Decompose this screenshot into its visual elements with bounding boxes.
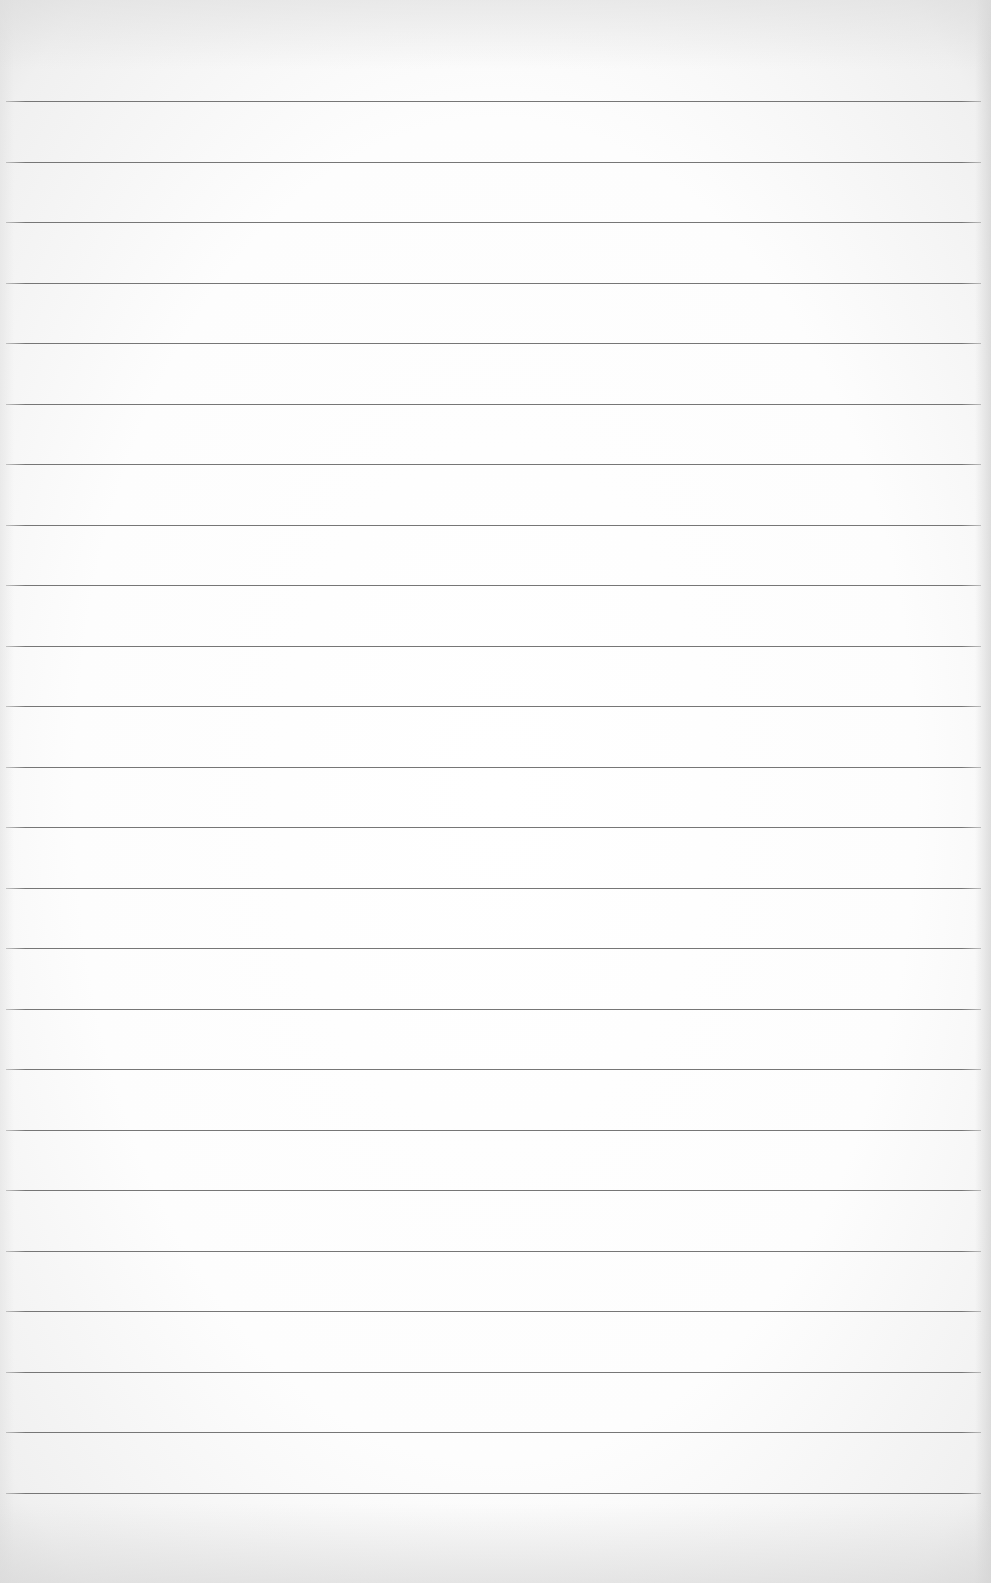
ruled-line — [6, 162, 981, 163]
ruled-line — [6, 585, 981, 586]
ruled-line — [6, 827, 981, 828]
ruled-line — [6, 222, 981, 223]
ruled-line — [6, 1069, 981, 1070]
ruled-line — [6, 343, 981, 344]
ruled-line — [6, 888, 981, 889]
ruled-line — [6, 1190, 981, 1191]
ruled-paper-page — [0, 0, 991, 1583]
ruled-line — [6, 948, 981, 949]
ruled-line — [6, 101, 981, 102]
ruled-line — [6, 464, 981, 465]
ruled-line — [6, 404, 981, 405]
ruled-line — [6, 283, 981, 284]
ruled-line — [6, 1311, 981, 1312]
ruled-line — [6, 1251, 981, 1252]
ruled-line — [6, 706, 981, 707]
ruled-line — [6, 1009, 981, 1010]
ruled-line — [6, 1372, 981, 1373]
ruled-line — [6, 646, 981, 647]
ruled-line — [6, 1493, 981, 1494]
ruled-line — [6, 525, 981, 526]
ruled-line — [6, 1432, 981, 1433]
ruled-line — [6, 767, 981, 768]
ruled-line — [6, 1130, 981, 1131]
